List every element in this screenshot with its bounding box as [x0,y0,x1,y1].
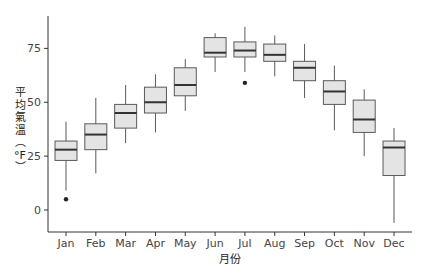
y-axis-title-char: ︶ [15,161,26,174]
boxes [55,27,405,223]
x-tick-label-jan: Jan [57,237,75,250]
boxplot-chart: 0255075 JanFebMarAprMayJunJulAugSepOctNo… [0,0,424,275]
y-axis-title-char: 溫 [15,123,26,137]
iqr-box [144,87,166,113]
y-tick-label: 50 [27,96,41,109]
x-tick-label-may: May [174,237,197,250]
outlier-point [243,81,247,85]
x-tick-label-jun: Jun [206,237,224,250]
box-oct [323,66,345,131]
box-feb [85,98,107,173]
box-mar [115,85,137,143]
x-tick-label-jul: Jul [237,237,251,250]
box-jun [204,33,226,72]
y-axis-title-char: 平 [15,86,26,99]
iqr-box [234,42,256,57]
x-tick-label-mar: Mar [115,237,136,250]
x-tick-label-sep: Sep [294,237,315,250]
x-tick-label-feb: Feb [86,237,105,250]
iqr-box [353,100,375,132]
y-tick-label: 75 [27,42,41,55]
iqr-box [115,104,137,128]
y-axis-title: 平均氣溫︵°F︶ [14,86,26,174]
outlier-point [64,197,68,201]
x-tick-label-aug: Aug [264,237,285,250]
iqr-box [204,38,226,57]
y-tick-label: 25 [27,150,41,163]
iqr-box [383,141,405,175]
box-jul [234,27,256,85]
iqr-box [323,81,345,105]
y-axis-title-char: ︵ [15,136,26,149]
y-axis-title-char: 氣 [15,110,26,124]
iqr-box [174,68,196,96]
x-tick-label-nov: Nov [353,237,375,250]
x-tick-label-apr: Apr [146,237,166,250]
iqr-box [294,61,316,80]
box-sep [294,44,316,98]
box-dec [383,128,405,223]
iqr-box [264,44,286,61]
box-nov [353,89,375,156]
box-apr [144,74,166,132]
box-may [174,59,196,111]
iqr-box [55,141,77,160]
y-axis-title-char: 均 [15,99,26,112]
y-ticks: 0255075 [27,42,48,217]
y-tick-label: 0 [34,204,41,217]
x-axis-title: 月份 [219,253,241,266]
x-tick-label-oct: Oct [325,237,345,250]
iqr-box [85,124,107,150]
x-ticks: JanFebMarAprMayJunJulAugSepOctNovDec [57,232,405,250]
box-aug [264,35,286,76]
box-jan [55,122,77,202]
x-tick-label-dec: Dec [383,237,404,250]
